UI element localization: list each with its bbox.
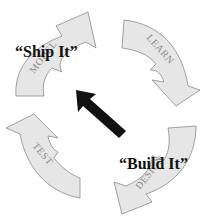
center-arrow-icon [76,90,126,138]
diagram-graphics: MODEL LEARN DESIGN TEST [0,0,214,222]
stage-learn: LEARN [122,20,200,106]
cycle-diagram: MODEL LEARN DESIGN TEST “Ship It” “Build… [0,0,214,222]
center-arrow [76,90,126,138]
stage-test: TEST [6,114,80,198]
ship-it-annotation: “Ship It” [15,44,78,60]
build-it-annotation: “Build It” [119,156,188,172]
curved-arrow-learn [122,20,200,106]
